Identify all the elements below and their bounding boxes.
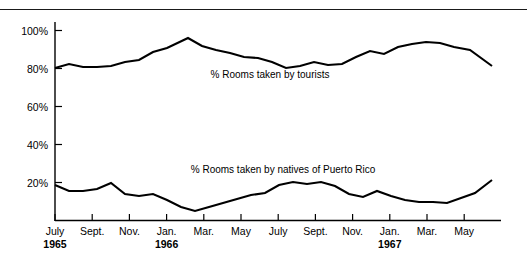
y-tick-label: 20%	[27, 177, 48, 189]
x-tick-label-month: July	[46, 225, 65, 237]
y-tick-label: 60%	[27, 101, 48, 113]
x-tick-label-month: Sept.	[80, 225, 105, 237]
x-tick-label-month: Jan.	[157, 225, 177, 237]
y-axis-ticks	[55, 31, 62, 183]
line-chart-svg: 20%40%60%80%100% July1965Sept.Nov.Jan.19…	[0, 0, 527, 263]
x-tick-label-year: 1967	[378, 238, 402, 250]
x-tick-label-month: Nov.	[342, 225, 363, 237]
top-divider-rule	[0, 9, 527, 10]
x-tick-label-year: 1966	[155, 238, 179, 250]
series-label-tourists: % Rooms taken by tourists	[211, 69, 330, 80]
series-label-natives: % Rooms taken by natives of Puerto Rico	[191, 164, 376, 175]
x-axis-tick-labels: July1965Sept.Nov.Jan.1966Mar.MayJulySept…	[43, 225, 475, 250]
series-line-tourists	[55, 38, 492, 68]
x-tick-label-month: May	[454, 225, 475, 237]
y-tick-label: 40%	[27, 139, 48, 151]
x-tick-label-month: May	[231, 225, 252, 237]
x-tick-label-month: July	[269, 225, 288, 237]
x-tick-label-month: Sept.	[303, 225, 328, 237]
x-tick-label-month: Jan.	[380, 225, 400, 237]
chart-figure: 20%40%60%80%100% July1965Sept.Nov.Jan.19…	[0, 0, 527, 263]
y-tick-label: 100%	[21, 25, 48, 37]
x-tick-label-year: 1965	[43, 238, 67, 250]
x-tick-label-month: Nov.	[119, 225, 140, 237]
series-line-natives	[55, 180, 492, 211]
x-tick-label-month: Mar.	[417, 225, 437, 237]
y-tick-label: 80%	[27, 63, 48, 75]
x-tick-label-month: Mar.	[194, 225, 214, 237]
y-axis-tick-labels: 20%40%60%80%100%	[21, 25, 48, 189]
